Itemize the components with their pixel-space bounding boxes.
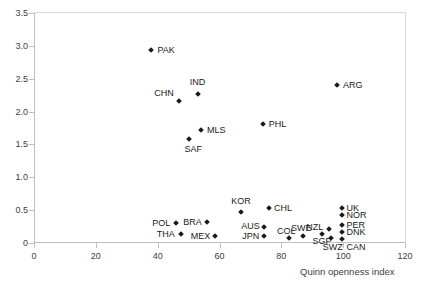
data-point-label-nzl: NZL (306, 223, 323, 232)
data-point-label-aus: AUS (241, 222, 260, 231)
x-tick-mark (343, 243, 344, 248)
y-tick-label: 3.5 (2, 9, 28, 18)
data-point-label-ind: IND (190, 78, 206, 87)
x-tick-mark (281, 243, 282, 248)
plot-right-border (405, 12, 406, 244)
x-tick-label: 120 (390, 252, 420, 261)
y-tick-mark (29, 46, 34, 47)
x-axis-title: Quinn openness index (300, 266, 395, 277)
data-point-label-mex: MEX (191, 232, 211, 241)
data-point-label-chl: CHL (274, 204, 292, 213)
y-tick-mark (29, 79, 34, 80)
data-point-label-arg: ARG (343, 81, 363, 90)
data-point-label-tha: THA (157, 230, 175, 239)
y-tick-mark (29, 210, 34, 211)
data-point-label-mls: MLS (207, 126, 226, 135)
data-point-label-jpn: JPN (242, 232, 259, 241)
x-tick-label: 100 (328, 252, 358, 261)
data-point-label-kor: KOR (231, 197, 251, 206)
y-tick-label: 1.0 (2, 173, 28, 182)
data-point-label-swz: SWZ (323, 243, 343, 252)
x-tick-label: 0 (19, 252, 49, 261)
y-tick-label: 1.5 (2, 140, 28, 149)
y-tick-label: 3.0 (2, 42, 28, 51)
data-point-label-dnk: DNK (347, 228, 366, 237)
data-point-label-pol: POL (152, 219, 170, 228)
data-point-label-chn: CHN (154, 89, 174, 98)
x-tick-mark (96, 243, 97, 248)
x-tick-label: 80 (266, 252, 296, 261)
data-point-label-can: CAN (347, 243, 366, 252)
data-point-label-saf: SAF (185, 145, 203, 154)
data-point-label-bra: BRA (183, 218, 202, 227)
x-tick-mark (34, 243, 35, 248)
data-point-label-pak: PAK (157, 46, 174, 55)
y-tick-label: 2.5 (2, 75, 28, 84)
y-tick-mark (29, 144, 34, 145)
y-tick-label: 0.5 (2, 206, 28, 215)
y-tick-label: 0 (2, 239, 28, 248)
x-tick-label: 40 (143, 252, 173, 261)
scatter-chart: 00.51.01.52.02.53.03.5 020406080100120 P… (0, 0, 426, 284)
x-tick-mark (220, 243, 221, 248)
y-tick-mark (29, 13, 34, 14)
x-tick-mark (158, 243, 159, 248)
x-tick-mark (405, 243, 406, 248)
y-tick-label: 2.0 (2, 108, 28, 117)
x-tick-label: 20 (81, 252, 111, 261)
y-tick-mark (29, 112, 34, 113)
y-tick-mark (29, 177, 34, 178)
data-point-label-phl: PHL (269, 120, 287, 129)
x-tick-label: 60 (205, 252, 235, 261)
